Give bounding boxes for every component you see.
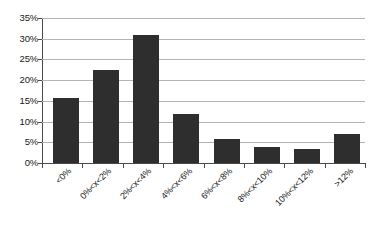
bar-7	[334, 134, 360, 163]
y-tick-label-10: 10%	[0, 117, 38, 127]
bar-3	[173, 114, 199, 163]
bar-2	[133, 35, 159, 163]
bar-chart: 35% 30% 25% 20% 15% 10% 5% 0%	[0, 0, 379, 225]
bar-5	[254, 147, 280, 163]
bar-4	[214, 139, 240, 163]
y-tick-label-35: 35%	[0, 13, 38, 23]
y-tick-label-30: 30%	[0, 34, 38, 44]
bar-0	[53, 98, 79, 163]
y-tick-label-5: 5%	[0, 137, 38, 147]
y-tick-label-20: 20%	[0, 75, 38, 85]
plot-area	[42, 18, 365, 163]
bars-layer	[42, 18, 365, 163]
bar-1	[93, 70, 119, 163]
x-axis-labels: <0% 0%<x<2% 2%<x<4% 4%<x<6% 6%<x<8% 8%<x…	[0, 166, 379, 225]
y-tick-label-25: 25%	[0, 54, 38, 64]
y-tick-label-15: 15%	[0, 96, 38, 106]
bar-6	[294, 149, 320, 163]
